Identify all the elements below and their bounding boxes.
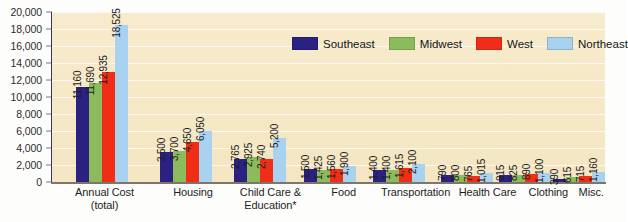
bar-value-label: 2,925	[243, 143, 254, 167]
x-axis-label: Clothing	[519, 184, 577, 220]
x-axis-label-line: Health Care	[456, 186, 520, 199]
bar-wrap: 3,700	[173, 12, 186, 182]
x-axis-label-line: Annual Cost	[52, 186, 157, 199]
bar-west-2[interactable]: 2,740	[260, 159, 273, 182]
bar-value-label: 1,560	[326, 155, 337, 179]
y-axis: 20,00018,00016,00014,00012,00010,0008,00…	[0, 12, 52, 182]
bar-value-label: 2,765	[230, 144, 241, 168]
x-axis-label-line: Child Care &	[229, 186, 312, 199]
x-axis-label-line: Transportation	[376, 186, 456, 199]
bar-wrap: 4,650	[186, 12, 199, 182]
x-axis-label: Misc.	[577, 184, 605, 220]
x-axis-label-line: Food	[312, 186, 376, 199]
legend-label: West	[507, 38, 533, 50]
x-axis-label: Transportation	[376, 184, 456, 220]
bar-northeast-1[interactable]: 6,050	[199, 131, 212, 182]
bar-value-label: 6,050	[195, 117, 206, 141]
bar-value-label: 1,160	[588, 158, 599, 182]
y-tick-label: 0	[36, 176, 42, 188]
y-tick-label: 8,000	[16, 108, 42, 120]
x-axis-label-line: Misc.	[577, 186, 605, 199]
bar-group: 11,16011,69012,93518,525	[52, 12, 152, 182]
bar-value-label: 11,160	[72, 71, 83, 100]
bar-value-label: 800	[450, 165, 461, 181]
bar-value-label: 1,015	[476, 159, 487, 183]
bar-wrap: 11,690	[89, 12, 102, 182]
y-tick-label: 18,000	[10, 23, 42, 35]
x-axis-label: Food	[312, 184, 376, 220]
y-tick-label: 2,000	[16, 159, 42, 171]
y-tick-label: 16,000	[10, 40, 42, 52]
bar-value-label: 765	[463, 165, 474, 181]
legend-item-northeast[interactable]: Northeast	[547, 37, 628, 50]
x-axis-label: Housing	[157, 184, 229, 220]
bar-value-label: 815	[495, 165, 506, 181]
bar-value-label: 1,400	[368, 156, 379, 180]
bar-value-label: 1,400	[381, 156, 392, 180]
bar-value-label: 5,200	[269, 124, 280, 148]
bar-midwest-0[interactable]: 11,690	[89, 83, 102, 182]
x-axis-label-line: (total)	[52, 199, 157, 212]
bar-value-label: 2,100	[407, 150, 418, 174]
chart-legend: SoutheastMidwestWestNortheast	[292, 37, 628, 50]
x-axis-label: Child Care &Education*	[229, 184, 312, 220]
bar-west-0[interactable]: 12,935	[102, 72, 115, 182]
legend-swatch-northeast	[547, 37, 573, 50]
bar-midwest-1[interactable]: 3,700	[173, 151, 186, 182]
bar-value-label: 3,700	[169, 137, 180, 161]
bar-northeast-3[interactable]: 1,900	[343, 166, 356, 182]
bar-southeast-0[interactable]: 11,160	[76, 87, 89, 182]
y-tick-label: 12,000	[10, 74, 42, 86]
bar-wrap: 18,525	[115, 12, 128, 182]
x-axis-label-line: Housing	[157, 186, 229, 199]
bar-value-label: 390	[549, 169, 560, 185]
y-tick-label: 10,000	[10, 91, 42, 103]
legend-label: Northeast	[578, 38, 628, 50]
bar-northeast-4[interactable]: 2,100	[412, 164, 425, 182]
bar-wrap: 5,200	[273, 12, 286, 182]
x-axis-label-line: Clothing	[519, 186, 577, 199]
bar-value-label: 615	[562, 167, 573, 183]
bar-wrap: 11,160	[76, 12, 89, 182]
bar-west-1[interactable]: 4,650	[186, 142, 199, 182]
y-tick-label: 20,000	[10, 6, 42, 18]
bar-value-label: 3,500	[156, 138, 167, 162]
bar-value-label: 825	[508, 165, 519, 181]
x-axis-label: Annual Cost(total)	[52, 184, 157, 220]
bar-northeast-5[interactable]: 1,015	[480, 173, 493, 182]
x-axis-labels: Annual Cost(total)HousingChild Care &Edu…	[52, 184, 605, 220]
bar-value-label: 11,690	[85, 66, 96, 95]
bar-value-label: 12,935	[98, 55, 109, 84]
bar-value-label: 890	[521, 164, 532, 180]
bar-value-label: 790	[437, 165, 448, 181]
legend-swatch-southeast	[292, 37, 318, 50]
bar-wrap: 6,050	[199, 12, 212, 182]
bar-northeast-7[interactable]: 1,160	[592, 172, 605, 182]
legend-item-midwest[interactable]: Midwest	[389, 37, 462, 50]
legend-item-southeast[interactable]: Southeast	[292, 37, 375, 50]
x-axis-label-line: Education*	[229, 199, 312, 212]
bar-value-label: 1,900	[339, 152, 350, 176]
bar-value-label: 1,425	[313, 156, 324, 180]
bar-northeast-2[interactable]: 5,200	[273, 138, 286, 182]
bar-value-label: 18,525	[111, 8, 122, 37]
bar-value-label: 1,100	[534, 159, 545, 183]
x-axis-label: Health Care	[456, 184, 520, 220]
bar-value-label: 1,615	[394, 154, 405, 178]
y-tick-label: 6,000	[16, 125, 42, 137]
bar-value-label: 2,740	[256, 145, 267, 169]
bar-group: 2,7652,9252,7405,200	[221, 12, 300, 182]
legend-label: Southeast	[323, 38, 375, 50]
bar-northeast-0[interactable]: 18,525	[115, 25, 128, 182]
legend-label: Midwest	[420, 38, 462, 50]
bar-wrap: 2,740	[260, 12, 273, 182]
bar-value-label: 4,650	[182, 128, 193, 152]
bar-value-label: 1,500	[300, 155, 311, 179]
legend-item-west[interactable]: West	[476, 37, 533, 50]
bar-value-label: 715	[575, 166, 586, 182]
legend-swatch-west	[476, 37, 502, 50]
bar-group: 3,5003,7004,6506,050	[152, 12, 221, 182]
y-tick-label: 14,000	[10, 57, 42, 69]
y-tick-label: 4,000	[16, 142, 42, 154]
